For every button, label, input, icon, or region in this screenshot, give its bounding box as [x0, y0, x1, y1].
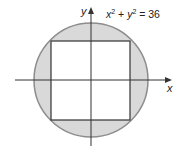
- circle-square-diagram: x y x2 + y2 = 36: [0, 0, 181, 152]
- y-axis-arrow-icon: [88, 7, 94, 14]
- equation-equals: = 36: [136, 8, 160, 20]
- equation-label: x2 + y2 = 36: [105, 8, 160, 20]
- equation-plus: +: [115, 8, 127, 20]
- y-axis-label: y: [80, 5, 88, 17]
- x-axis-label: x: [166, 82, 173, 94]
